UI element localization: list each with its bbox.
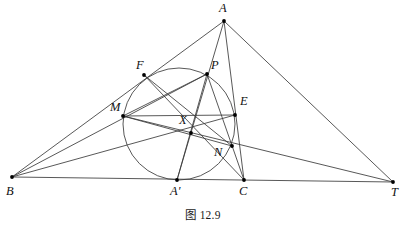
chord-M-P — [123, 74, 207, 116]
chord-F-N — [144, 75, 232, 146]
line-B-P — [12, 74, 207, 177]
line-A-T — [224, 21, 393, 182]
point-label-P: P — [211, 59, 219, 72]
point-N — [230, 144, 234, 148]
point-T — [391, 180, 395, 184]
point-label-M: M — [110, 101, 120, 114]
point-label-A: A — [219, 2, 227, 15]
chord-F-C — [144, 75, 244, 180]
point-label-F: F — [136, 59, 144, 72]
side-AB — [12, 21, 224, 177]
figure-caption: 图 12.9 — [0, 206, 406, 222]
segment-layer — [12, 21, 393, 182]
point-B — [10, 175, 14, 179]
point-label-E: E — [240, 95, 248, 108]
point-P — [205, 72, 209, 76]
point-label-C: C — [239, 185, 247, 198]
chord-P-Aprime — [177, 74, 207, 180]
point-E — [233, 113, 237, 117]
point-F — [142, 73, 146, 77]
point-layer — [10, 19, 395, 184]
side-BT — [12, 177, 393, 182]
point-label-N: N — [214, 146, 222, 159]
point-label-B: B — [6, 185, 14, 198]
geometry-canvas — [0, 0, 406, 226]
geometry-figure: ABCTA′FPMEXN 图 12.9 — [0, 0, 406, 226]
chord-P-C — [207, 74, 244, 180]
point-label-Ap: A′ — [170, 185, 180, 198]
point-M — [121, 114, 125, 118]
point-X — [189, 131, 193, 135]
point-C — [242, 178, 246, 182]
line-T-M — [123, 116, 393, 182]
point-Ap — [175, 178, 179, 182]
point-label-T: T — [391, 186, 398, 199]
point-label-X: X — [179, 114, 187, 127]
line-B-E — [12, 115, 235, 177]
point-A — [222, 19, 226, 23]
